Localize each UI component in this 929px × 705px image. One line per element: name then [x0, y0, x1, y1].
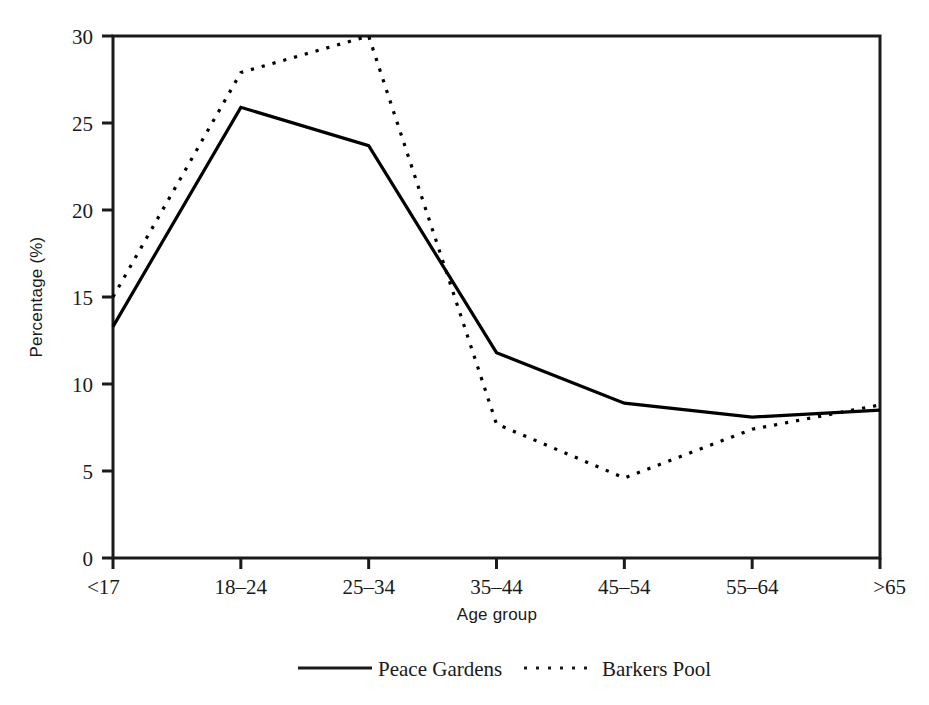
y-tick-label: 25 [72, 112, 93, 136]
x-axis-title: Age group [457, 605, 537, 624]
x-tick-label: 55–64 [726, 575, 779, 599]
x-tick-label: <17 [87, 575, 120, 599]
x-tick-label: 25–34 [342, 575, 395, 599]
x-tick-label: 18–24 [215, 575, 268, 599]
y-tick-label: 5 [83, 460, 94, 484]
y-tick-label: 0 [83, 547, 94, 571]
y-tick-label: 15 [72, 286, 93, 310]
legend-label-peace-gardens: Peace Gardens [378, 657, 502, 681]
line-chart-figure: 051015202530 <1718–2425–3435–4445–5455–6… [0, 0, 929, 705]
y-tick-label: 20 [72, 199, 93, 223]
y-tick-label: 30 [72, 25, 93, 49]
chart-background [0, 0, 929, 705]
y-axis-title: Percentage (%) [27, 237, 46, 358]
x-tick-label: 45–54 [598, 575, 651, 599]
legend-label-barkers-pool: Barkers Pool [602, 657, 711, 681]
x-tick-label: 35–44 [470, 575, 523, 599]
y-tick-label: 10 [72, 373, 93, 397]
x-tick-label: >65 [873, 575, 906, 599]
chart-canvas: 051015202530 <1718–2425–3435–4445–5455–6… [0, 0, 929, 705]
